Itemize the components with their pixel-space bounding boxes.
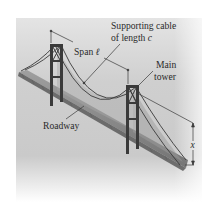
main-tower-label-line1: Main: [156, 59, 176, 70]
span-variable: ℓ: [96, 46, 100, 57]
span-label-prefix: Span: [74, 46, 96, 57]
supporting-cable-label-line1: Supporting cable: [111, 20, 176, 31]
suspension-bridge-diagram: Supporting cable of length c Span ℓ Main…: [0, 0, 214, 210]
height-variable-label: x: [190, 139, 196, 150]
supporting-cable-label-line2: of length c: [111, 32, 153, 43]
main-tower-label-line2: tower: [154, 71, 177, 82]
cable-length-variable: c: [148, 32, 153, 43]
supporting-cable-label-prefix: of length: [111, 32, 148, 43]
span-label: Span ℓ: [74, 46, 100, 57]
roadway-label: Roadway: [43, 120, 79, 131]
